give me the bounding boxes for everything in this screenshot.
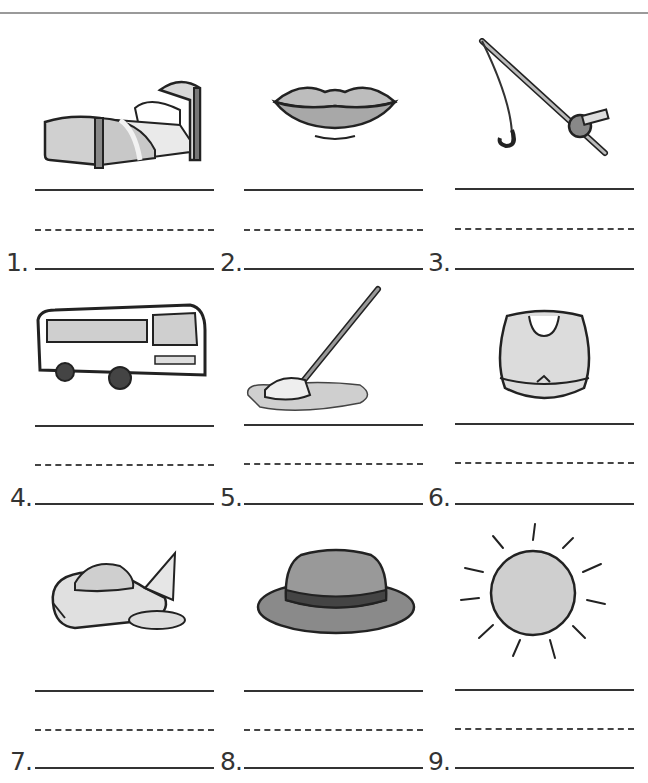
writing-line-5-top	[244, 424, 423, 426]
writing-line-6-middle	[455, 462, 634, 464]
writing-line-4-middle	[35, 464, 214, 466]
answer-line-8[interactable]	[244, 767, 423, 769]
answer-line-4[interactable]	[35, 503, 214, 505]
answer-line-6[interactable]	[455, 503, 634, 505]
bib-picture	[492, 308, 597, 408]
item-number-2: 2.	[220, 250, 242, 275]
answer-line-3[interactable]	[455, 268, 634, 270]
item-number-4: 4.	[10, 485, 32, 510]
writing-line-9-middle	[455, 728, 634, 730]
writing-line-7-middle	[35, 729, 214, 731]
fishing-rod-picture	[470, 38, 620, 163]
bus-picture	[35, 300, 210, 395]
writing-line-1-top	[35, 189, 214, 191]
writing-line-8-middle	[244, 729, 423, 731]
writing-line-2-middle	[244, 229, 423, 231]
answer-line-7[interactable]	[35, 767, 214, 769]
writing-line-3-top	[455, 188, 634, 190]
hat-picture	[256, 545, 416, 637]
answer-line-9[interactable]	[455, 767, 634, 769]
item-number-8: 8.	[220, 749, 242, 774]
item-number-9: 9.	[428, 749, 450, 774]
sun-picture	[455, 520, 610, 670]
writing-line-7-top	[35, 690, 214, 692]
answer-line-1[interactable]	[35, 268, 214, 270]
item-number-7: 7.	[10, 749, 32, 774]
bed-picture	[40, 70, 210, 175]
item-number-3: 3.	[428, 250, 450, 275]
writing-line-1-middle	[35, 229, 214, 231]
writing-line-9-top	[455, 689, 634, 691]
item-number-6: 6.	[428, 485, 450, 510]
answer-line-5[interactable]	[244, 503, 423, 505]
writing-line-6-top	[455, 423, 634, 425]
mop-picture	[240, 285, 390, 420]
writing-line-5-middle	[244, 463, 423, 465]
writing-line-8-top	[244, 690, 423, 692]
item-number-1: 1.	[6, 250, 28, 275]
answer-line-2[interactable]	[244, 268, 423, 270]
writing-line-2-top	[244, 189, 423, 191]
writing-line-4-top	[35, 425, 214, 427]
spaceship-picture	[45, 548, 190, 638]
writing-line-3-middle	[455, 228, 634, 230]
item-number-5: 5.	[220, 485, 242, 510]
top-border-line	[0, 12, 648, 14]
lips-picture	[270, 82, 400, 144]
